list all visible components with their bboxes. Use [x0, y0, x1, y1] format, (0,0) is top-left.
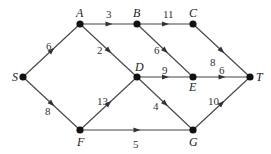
network-graph: 6832116896413510 SABCDETFG — [0, 0, 271, 154]
edge-weight-label: 6 — [46, 40, 52, 52]
edge-weight-label: 11 — [163, 8, 174, 20]
node-a — [76, 20, 83, 27]
edge-weight-label: 3 — [106, 8, 112, 20]
edge-weight-label: 4 — [153, 100, 159, 112]
node-f — [76, 126, 83, 133]
edge-weight-label: 2 — [97, 44, 103, 56]
edge-weight-label: 6 — [219, 64, 225, 76]
node-label: B — [133, 6, 141, 20]
node-label: D — [134, 60, 144, 74]
edge-weight-label: 8 — [45, 105, 51, 117]
edge-weight-label: 13 — [97, 95, 109, 107]
node-s — [19, 73, 26, 80]
node-g — [189, 126, 196, 133]
node-label: S — [12, 70, 18, 84]
arrowhead-icon — [106, 21, 113, 26]
arrowhead-icon — [134, 127, 141, 132]
node-label: G — [189, 135, 198, 149]
node-label: T — [256, 70, 264, 84]
edge-weight-label: 8 — [210, 56, 216, 68]
node-label: A — [75, 6, 84, 20]
edge-weight-label: 9 — [162, 64, 168, 76]
edge-weight-label: 6 — [154, 44, 160, 56]
arrowhead-icon — [162, 21, 169, 26]
edge-weight-label: 5 — [133, 138, 139, 150]
edge-weight-label: 10 — [208, 95, 220, 107]
node-label: E — [188, 80, 197, 94]
node-c — [189, 20, 196, 27]
node-b — [133, 20, 140, 27]
node-label: F — [76, 135, 85, 149]
node-d — [133, 73, 140, 80]
node-t — [246, 73, 253, 80]
node-label: C — [189, 6, 198, 20]
